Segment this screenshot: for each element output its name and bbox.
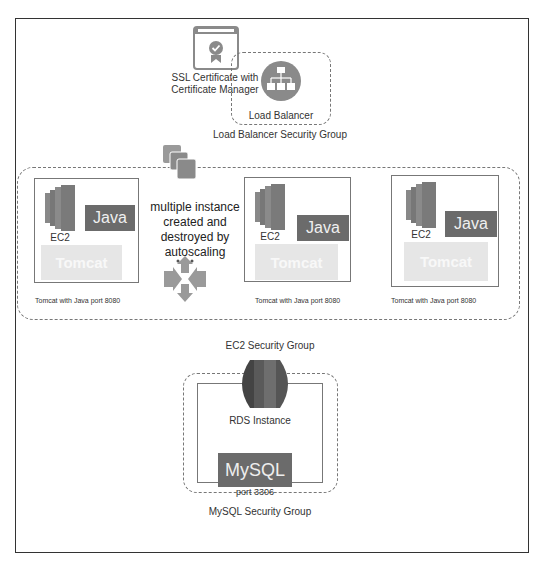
load-balancer-label: Load Balancer: [231, 110, 331, 121]
instances-stack-icon: [163, 144, 197, 180]
ec2-caption: Tomcat with Java port 8080: [255, 297, 340, 304]
ec2-instance-box: EC2 Java Tomcat: [244, 177, 351, 282]
java-block: Java: [445, 211, 497, 237]
java-block: Java: [85, 205, 135, 231]
ec2-group-label: EC2 Security Group: [210, 340, 330, 351]
autoscaling-line1: multiple instance: [140, 200, 250, 215]
rds-icon: [242, 358, 288, 410]
rds-label: RDS Instance: [220, 415, 300, 426]
ec2-caption: Tomcat with Java port 8080: [35, 297, 120, 304]
tomcat-block: Tomcat: [255, 244, 338, 280]
ec2-instance-box: EC2 Java Tomcat: [391, 175, 499, 287]
autoscaling-description: multiple instance created and destroyed …: [140, 200, 250, 260]
port-label: port 3306: [220, 487, 290, 497]
ec2-caption: Tomcat with Java port 8080: [391, 297, 476, 304]
ec2-icon: [45, 185, 77, 235]
ec2-instance-box: EC2 Java Tomcat: [34, 178, 139, 283]
load-balancer-icon: [260, 60, 302, 102]
java-block: Java: [297, 215, 349, 241]
tomcat-block: Tomcat: [41, 245, 122, 280]
autoscaling-arrows-icon: [163, 255, 207, 303]
ec2-label: EC2: [406, 229, 436, 240]
mysql-block: MySQL: [218, 453, 292, 487]
autoscaling-line3: destroyed by: [140, 230, 250, 245]
tomcat-block: Tomcat: [404, 242, 488, 281]
mysql-group-label: MySQL Security Group: [190, 506, 330, 517]
autoscaling-line2: created and: [140, 215, 250, 230]
ec2-label: EC2: [255, 231, 285, 242]
load-balancer-group-label: Load Balancer Security Group: [190, 129, 370, 140]
ec2-icon: [255, 184, 287, 234]
ec2-icon: [406, 182, 438, 232]
ec2-label: EC2: [45, 232, 75, 243]
